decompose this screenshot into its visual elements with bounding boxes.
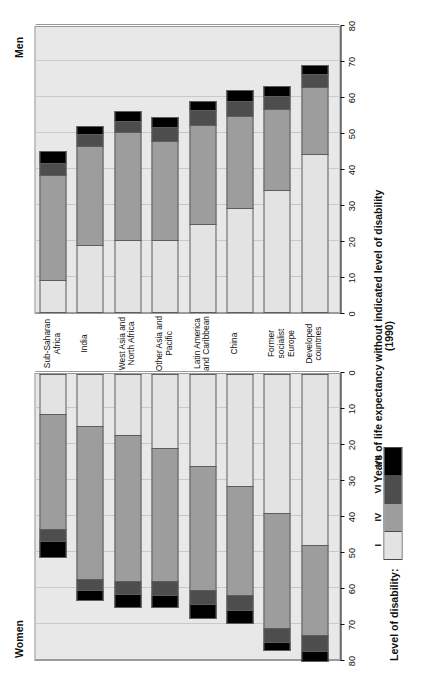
- category-label: West Asia and North Africa: [117, 314, 136, 373]
- bar-segment-level-I: [263, 191, 290, 313]
- bar-segment-level-I: [151, 241, 178, 313]
- legend: Level of disability: IIVVIVII: [383, 447, 402, 661]
- x-axis-tick: [340, 313, 344, 314]
- bar-segment-level-VI: [39, 529, 66, 542]
- gridline: [35, 96, 339, 97]
- bar-segment-level-IV: [226, 486, 253, 596]
- bar-segment-level-IV: [301, 88, 328, 155]
- x-axis-tick-label: 30: [346, 193, 356, 219]
- bar-segment-level-I: [114, 374, 141, 435]
- chart-figure: Women Men Sub-Saharan AfricaIndiaWest As…: [0, 0, 425, 686]
- bar-segment-level-I: [301, 155, 328, 313]
- x-axis-line: [340, 26, 341, 314]
- x-axis-tick-label: 10: [346, 265, 356, 291]
- bar-segment-level-VII: [263, 642, 290, 651]
- bar-segment-level-VII: [301, 651, 328, 662]
- bar-segment-level-VII: [151, 595, 178, 608]
- x-axis-line: [340, 373, 341, 661]
- x-axis-tick: [340, 552, 344, 553]
- x-axis-tick-label: 50: [346, 540, 356, 566]
- bar-india[interactable]: [76, 126, 103, 313]
- bar-segment-level-VII: [189, 101, 216, 112]
- bar-former-socialist-europe[interactable]: [263, 86, 290, 313]
- x-axis-tick: [340, 372, 344, 373]
- legend-label-level-VI: VI: [371, 476, 382, 503]
- legend-title: Level of disability:: [387, 569, 399, 661]
- x-axis-tick-label: 60: [346, 85, 356, 111]
- bar-segment-level-I: [39, 281, 66, 313]
- bar-developed-countries[interactable]: [301, 65, 328, 313]
- x-axis-tick-label: 70: [346, 49, 356, 75]
- category-label: Latin America and Caribbean: [192, 314, 211, 373]
- x-axis-tick: [340, 25, 344, 26]
- x-axis-tick: [340, 408, 344, 409]
- bar-west-asia-and-north-africa[interactable]: [114, 111, 141, 313]
- legend-label-level-VII: VII: [371, 448, 382, 475]
- bar-segment-level-VI: [114, 581, 141, 594]
- bar-latin-america-and-caribbean[interactable]: [189, 374, 216, 619]
- bar-segment-level-IV: [39, 176, 66, 280]
- legend-swatch-level-VI: VI: [384, 475, 401, 503]
- category-label: Sub-Saharan Africa: [42, 314, 61, 373]
- bar-segment-level-I: [263, 374, 290, 513]
- bar-segment-level-I: [226, 374, 253, 486]
- figure-rotator: Women Men Sub-Saharan AfricaIndiaWest As…: [0, 0, 425, 686]
- bar-other-asia-and-pacific[interactable]: [151, 374, 178, 608]
- bar-segment-level-IV: [301, 545, 328, 635]
- bar-sub-saharan-africa[interactable]: [39, 374, 66, 558]
- bar-china[interactable]: [226, 374, 253, 624]
- bar-segment-level-VI: [151, 581, 178, 595]
- category-label: Developed countries: [304, 314, 323, 373]
- bar-segment-level-I: [301, 374, 328, 545]
- bar-segment-level-VII: [263, 86, 290, 97]
- bar-west-asia-and-north-africa[interactable]: [114, 374, 141, 608]
- x-axis-tick-label: 70: [346, 612, 356, 638]
- x-axis-tick-label: 0: [346, 301, 356, 327]
- gridline: [35, 659, 339, 660]
- x-axis-tick-label: 80: [346, 648, 356, 674]
- bar-india[interactable]: [76, 374, 103, 601]
- bar-segment-level-IV: [189, 126, 216, 225]
- legend-label-level-IV: IV: [371, 504, 382, 531]
- bar-segment-level-VI: [189, 111, 216, 125]
- bar-segment-level-VII: [151, 117, 178, 128]
- bar-segment-level-I: [76, 374, 103, 426]
- bar-segment-level-IV: [114, 435, 141, 581]
- bar-segment-level-VII: [226, 610, 253, 624]
- bar-segment-level-VII: [189, 604, 216, 618]
- plot-panel-men: [34, 26, 340, 314]
- bar-segment-level-VI: [114, 122, 141, 133]
- legend-swatch-level-VII: VII: [384, 448, 401, 475]
- bar-china[interactable]: [226, 90, 253, 313]
- legend-swatch-level-IV: IV: [384, 503, 401, 531]
- legend-swatch-level-I: I: [384, 531, 401, 559]
- bar-sub-saharan-africa[interactable]: [39, 151, 66, 313]
- panel-title-women: Women: [12, 620, 24, 658]
- x-axis-tick: [340, 205, 344, 206]
- bar-other-asia-and-pacific[interactable]: [151, 117, 178, 313]
- bar-segment-level-I: [189, 374, 216, 466]
- bar-segment-level-IV: [76, 426, 103, 579]
- bar-segment-level-IV: [226, 117, 253, 209]
- x-axis-tick: [340, 133, 344, 134]
- bar-segment-level-IV: [263, 110, 290, 191]
- bar-segment-level-VI: [39, 164, 66, 177]
- bar-segment-level-VI: [263, 628, 290, 642]
- x-axis-tick-label: 80: [346, 13, 356, 39]
- category-label: Former socialist Europe: [266, 314, 295, 373]
- bar-latin-america-and-caribbean[interactable]: [189, 101, 216, 313]
- bar-segment-level-VI: [76, 579, 103, 590]
- bar-segment-level-IV: [39, 414, 66, 529]
- bar-developed-countries[interactable]: [301, 374, 328, 662]
- bar-segment-level-I: [39, 374, 66, 414]
- x-axis-tick-label: 10: [346, 396, 356, 422]
- bar-segment-level-VII: [114, 594, 141, 608]
- bar-former-socialist-europe[interactable]: [263, 374, 290, 651]
- gridline: [35, 24, 339, 25]
- bar-segment-level-I: [76, 246, 103, 313]
- x-axis-tick: [340, 61, 344, 62]
- legend-swatches: IIVVIVII: [383, 447, 402, 560]
- category-label: India: [79, 314, 89, 373]
- x-axis-tick: [340, 444, 344, 445]
- bar-segment-level-VI: [301, 635, 328, 651]
